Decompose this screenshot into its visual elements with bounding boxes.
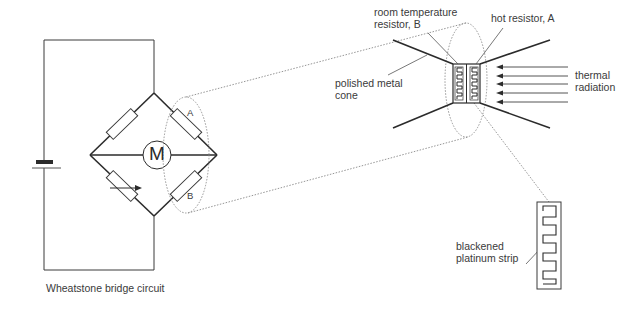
platinum-strip-detail xyxy=(537,202,561,289)
meter-label: M xyxy=(149,143,165,165)
hot-resistor-label: hot resistor, A xyxy=(491,12,555,24)
room-temp-label-line2: resistor, B xyxy=(374,18,421,30)
resistor-a-label: A xyxy=(187,107,193,119)
strip-label-line1: blackened xyxy=(456,240,504,252)
bolometer-diagram: M A B room temperature resistor, B hot r… xyxy=(0,0,644,311)
resistor-b-label: B xyxy=(187,190,193,202)
thermal-radiation-arrows xyxy=(496,65,568,105)
projection-cylinder xyxy=(163,23,549,213)
thermal-label-line2: radiation xyxy=(575,81,615,93)
battery-icon xyxy=(32,160,61,168)
cone-label-line1: polished metal xyxy=(335,77,403,89)
diagram-canvas xyxy=(0,0,644,311)
strip-label-line2: platinum strip xyxy=(456,252,518,264)
cone-label-line2: cone xyxy=(335,89,358,101)
room-temp-label-line1: room temperature xyxy=(374,6,457,18)
sensor-housing xyxy=(453,64,480,103)
thermal-label-line1: thermal xyxy=(575,69,610,81)
caption: Wheatstone bridge circuit xyxy=(46,282,164,294)
